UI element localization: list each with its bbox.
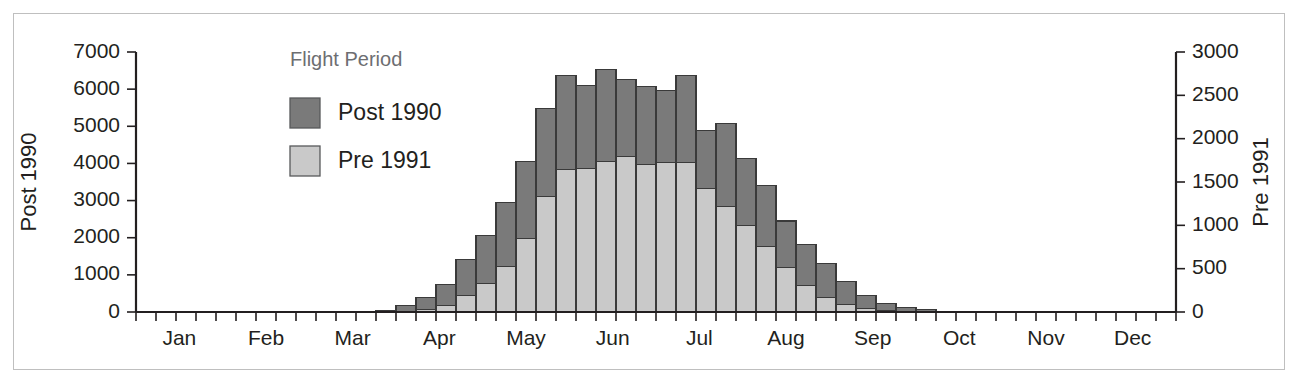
bar-post-1990: [476, 235, 496, 283]
bar-pre-1991: [656, 163, 676, 312]
bar-post-1990: [796, 244, 816, 285]
bar-pre-1991: [556, 170, 576, 312]
bar-post-1990: [536, 109, 556, 197]
x-tick-label-nov: Nov: [1027, 326, 1065, 349]
x-tick-label-jan: Jan: [162, 326, 196, 349]
bar-pre-1991: [616, 157, 636, 312]
x-tick-label-may: May: [506, 326, 546, 349]
y-tick-label-right: 2000: [1192, 125, 1239, 148]
bar-pre-1991: [456, 296, 476, 312]
bar-pre-1991: [716, 206, 736, 312]
y-tick-label-left: 2000: [73, 224, 120, 247]
bar-post-1990: [716, 123, 736, 206]
y-tick-label-right: 1500: [1192, 169, 1239, 192]
legend-swatch-post-1990: [290, 98, 320, 128]
y-tick-label-left: 5000: [73, 113, 120, 136]
x-tick-label-mar: Mar: [335, 326, 371, 349]
bar-post-1990: [396, 306, 416, 311]
bar-post-1990: [596, 69, 616, 161]
bar-post-1990: [616, 80, 636, 157]
bar-post-1990: [656, 90, 676, 163]
y-tick-label-left: 3000: [73, 187, 120, 210]
y-axis-title-right: Pre 1991: [1248, 137, 1273, 226]
y-tick-label-right: 3000: [1192, 39, 1239, 62]
y-tick-label-right: 2500: [1192, 82, 1239, 105]
bar-post-1990: [516, 161, 536, 238]
x-tick-label-sep: Sep: [854, 326, 891, 349]
bar-post-1990: [576, 85, 596, 168]
y-tick-label-left: 4000: [73, 150, 120, 173]
bar-pre-1991: [776, 268, 796, 312]
bar-post-1990: [816, 264, 836, 297]
bar-post-1990: [416, 298, 436, 310]
legend-swatch-pre-1991: [290, 146, 320, 176]
x-tick-label-oct: Oct: [943, 326, 976, 349]
bar-post-1990: [456, 260, 476, 296]
bar-pre-1991: [576, 168, 596, 312]
y-tick-label-right: 500: [1192, 255, 1227, 278]
bar-pre-1991: [676, 162, 696, 312]
x-tick-label-jun: Jun: [596, 326, 630, 349]
y-tick-label-left: 1000: [73, 261, 120, 284]
x-tick-label-aug: Aug: [767, 326, 804, 349]
y-tick-label-left: 0: [108, 299, 120, 322]
bar-post-1990: [736, 159, 756, 225]
bar-post-1990: [696, 130, 716, 188]
bar-post-1990: [836, 281, 856, 304]
legend-label-post-1990: Post 1990: [338, 99, 442, 125]
x-tick-label-apr: Apr: [423, 326, 456, 349]
bar-post-1990: [876, 303, 896, 310]
legend-group: Flight PeriodPost 1990Pre 1991: [290, 48, 442, 176]
bar-post-1990: [636, 87, 656, 165]
bar-post-1990: [856, 295, 876, 308]
bar-pre-1991: [816, 297, 836, 312]
bar-pre-1991: [516, 238, 536, 312]
y-tick-label-right: 0: [1192, 299, 1204, 322]
bar-post-1990: [496, 203, 516, 267]
bar-pre-1991: [836, 304, 856, 312]
y-axis-title-left: Post 1990: [16, 132, 41, 231]
bar-post-1990: [756, 186, 776, 247]
bar-pre-1991: [476, 283, 496, 312]
bar-pre-1991: [696, 188, 716, 312]
legend-label-pre-1991: Pre 1991: [338, 147, 431, 173]
y-tick-label-left: 7000: [73, 39, 120, 62]
bar-pre-1991: [596, 161, 616, 312]
x-tick-label-feb: Feb: [248, 326, 284, 349]
bar-post-1990: [776, 221, 796, 268]
bar-pre-1991: [756, 246, 776, 312]
stacked-bar-chart: 0100020003000400050006000700005001000150…: [0, 0, 1298, 381]
y-tick-label-right: 1000: [1192, 212, 1239, 235]
bar-pre-1991: [736, 225, 756, 312]
bar-post-1990: [896, 307, 916, 311]
bar-pre-1991: [496, 267, 516, 312]
bar-post-1990: [556, 76, 576, 170]
bar-pre-1991: [636, 165, 656, 312]
bar-pre-1991: [796, 285, 816, 312]
y-tick-label-left: 6000: [73, 76, 120, 99]
bar-pre-1991: [536, 197, 556, 312]
bar-post-1990: [676, 76, 696, 163]
bar-post-1990: [436, 284, 456, 305]
bars-group: [376, 69, 956, 312]
x-tick-label-dec: Dec: [1114, 326, 1151, 349]
legend-title: Flight Period: [290, 48, 402, 70]
x-tick-label-jul: Jul: [686, 326, 713, 349]
